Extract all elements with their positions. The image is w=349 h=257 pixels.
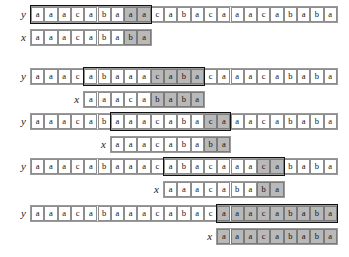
sequence-cell: a [84,7,97,22]
text-row-label: y [12,68,26,85]
sequence-cell: a [124,137,137,152]
sequence-cell: a [44,69,57,84]
sequence-cell: c [71,206,84,221]
sequence-cell: a [58,7,71,22]
sequence-cell: a [164,137,177,152]
sequence-cell-highlighted: a [297,206,310,221]
sequence-cell-highlighted: b [124,30,137,45]
sequence-cell: a [98,92,111,107]
sequence-cell: b [284,7,297,22]
sequence-cell: a [111,30,124,45]
sequence-cell-highlighted: a [244,229,257,244]
sequence-cell: a [111,114,124,129]
sequence-cell: a [244,182,257,197]
sequence-cell: a [31,206,44,221]
sequence-cell: c [257,114,270,129]
sequence-cell: a [164,114,177,129]
sequence-cell: c [151,114,164,129]
sequence-cell: a [217,159,230,174]
sequence-cell: a [111,7,124,22]
sequence-cell-highlighted: b [310,206,323,221]
sequence-cell: a [111,92,124,107]
sequence-cell: c [71,69,84,84]
sequence-cell: b [310,114,323,129]
sequence-cell: c [204,206,217,221]
sequence-cell: c [124,92,137,107]
sequence-cell-highlighted: c [257,159,270,174]
sequence-cell-highlighted: b [177,69,190,84]
sequence-cell: a [231,69,244,84]
sequence-cell: a [191,7,204,22]
sequence-cell: a [111,137,124,152]
sequence-cell: a [31,114,44,129]
sequence-cell: c [204,159,217,174]
sequence-cell-highlighted: b [177,92,190,107]
sequence-cell: a [58,30,71,45]
sequence-cell: a [84,206,97,221]
sequence-cell-highlighted: b [284,229,297,244]
sequence-cell: a [297,7,310,22]
sequence-cell: c [151,137,164,152]
sequence-cell-highlighted: a [124,7,137,22]
sequence-cell: a [324,7,337,22]
alignment-step: yaaacabaaacabacaaacababaxaaacababa [0,6,349,46]
sequence-cell: a [270,114,283,129]
sequence-cell: a [217,182,230,197]
alignment-step: yaaacabaaacabacaaacababaxaaacababa [0,113,349,153]
sequence-cell-highlighted: c [204,114,217,129]
sequence-cell: a [84,30,97,45]
sequence-cell: a [324,114,337,129]
sequence-cell-highlighted: a [270,206,283,221]
text-row-label: y [12,158,26,175]
sequence-cell: a [137,137,150,152]
sequence-cell: a [231,159,244,174]
sequence-cell: a [297,159,310,174]
sequence-cell-highlighted: a [164,92,177,107]
sequence-cell: a [217,69,230,84]
sequence-cell: b [98,206,111,221]
sequence-cell: b [310,7,323,22]
sequence-cell: a [84,69,97,84]
sequence-cell-highlighted: a [164,69,177,84]
sequence-cell-highlighted: c [257,206,270,221]
sequence-cell: c [71,114,84,129]
sequence-cell: a [244,114,257,129]
alignment-trace-figure: yaaacabaaacabacaaacababaxaaacababayaaaca… [0,0,349,257]
sequence-cell: a [137,159,150,174]
sequence-cell: b [177,114,190,129]
sequence-cell: c [151,206,164,221]
sequence-cell-highlighted: c [257,229,270,244]
sequence-cell: b [310,69,323,84]
sequence-cell-highlighted: a [231,206,244,221]
sequence-cell: a [164,206,177,221]
sequence-cell: a [44,159,57,174]
sequence-cell: b [177,7,190,22]
sequence-cell: a [58,206,71,221]
sequence-cell: a [297,69,310,84]
sequence-cell-highlighted: a [217,114,230,129]
sequence-cell: b [284,69,297,84]
text-row-label: y [12,6,26,23]
sequence-cell: a [84,114,97,129]
text-row-label: y [12,113,26,130]
sequence-cell: a [31,30,44,45]
sequence-cell: b [284,159,297,174]
sequence-cell: a [44,7,57,22]
sequence-cell: a [84,92,97,107]
sequence-cell: a [124,114,137,129]
sequence-cell: c [71,159,84,174]
pattern-row-label: x [198,228,212,245]
sequence-cell: a [111,69,124,84]
sequence-cell: b [284,114,297,129]
sequence-cell-highlighted: a [217,206,230,221]
sequence-cell: a [244,159,257,174]
sequence-cell-highlighted: a [270,182,283,197]
sequence-cell: a [270,69,283,84]
text-row-label: y [12,205,26,222]
sequence-cell: a [324,159,337,174]
sequence-cell: a [31,69,44,84]
alignment-step: yaaacabaaacabacaaacababaxaaacababa [0,158,349,198]
sequence-cell: a [231,114,244,129]
sequence-cell: b [98,114,111,129]
sequence-cell: c [151,7,164,22]
